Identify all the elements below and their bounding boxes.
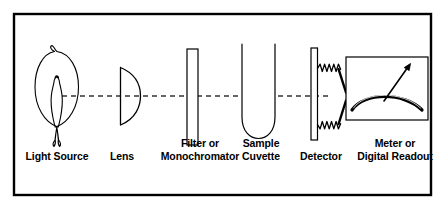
cuvette-tube-icon bbox=[242, 44, 275, 139]
detector-plate-icon bbox=[311, 48, 318, 140]
spectrophotometer-diagram: Light Source Lens Filter or Monochromato… bbox=[0, 0, 444, 208]
label-lens: Lens bbox=[99, 150, 145, 163]
diagram-canvas bbox=[0, 0, 444, 208]
filter-slab-icon bbox=[187, 49, 198, 145]
analog-meter-icon bbox=[346, 57, 428, 120]
label-light-source: Light Source bbox=[14, 150, 100, 163]
label-meter-digital-readout: Meter or Digital Readout bbox=[345, 137, 444, 162]
